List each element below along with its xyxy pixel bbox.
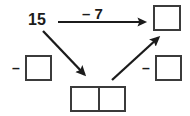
partitioned-box-bottom [70,86,126,112]
operation-label-subtract-seven: – 7 [82,6,103,21]
result-box-top-right[interactable] [153,5,181,31]
partitioned-box-cell-right[interactable] [98,88,124,110]
math-diagram: 15 – 7 – – [0,0,190,116]
operand-box-right[interactable] [155,55,182,81]
start-number-label: 15 [28,12,46,28]
operation-label-minus-left: – [12,61,20,75]
arrow-diagonal-up-right [112,38,159,81]
operation-label-minus-right: – [142,61,150,75]
operand-box-left[interactable] [25,55,52,81]
partitioned-box-cell-left[interactable] [72,88,98,110]
